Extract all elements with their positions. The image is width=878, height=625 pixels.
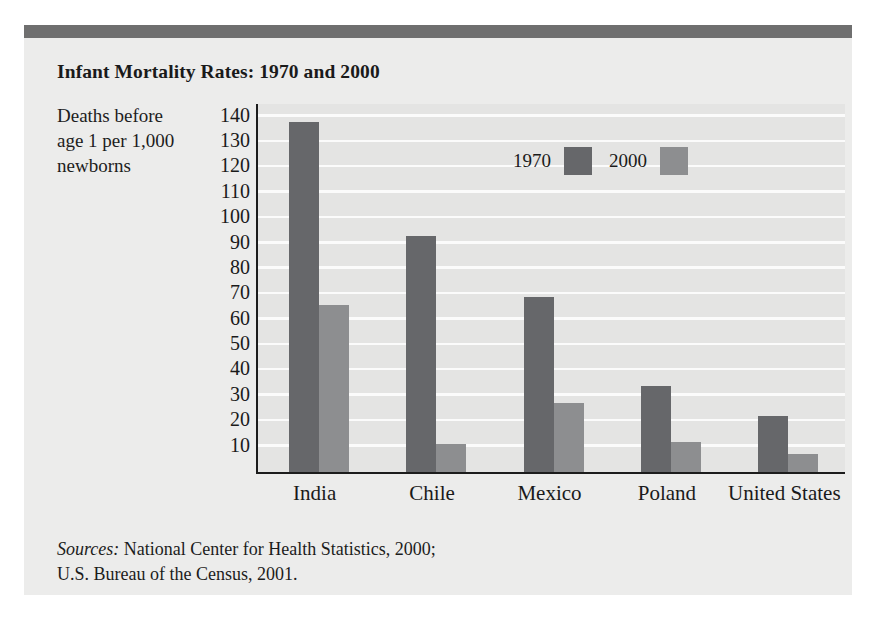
bar-mexico-2000	[554, 403, 584, 472]
gridline	[258, 241, 845, 244]
x-axis-label-united-states: United States	[716, 480, 853, 506]
bar-united-states-1970	[758, 416, 788, 472]
bar-india-1970	[289, 122, 319, 472]
bar-poland-1970	[641, 386, 671, 472]
bar-chile-1970	[406, 236, 436, 472]
legend-swatch-2000	[660, 147, 688, 175]
y-axis-tick-label: 30	[230, 384, 250, 404]
header-band	[24, 25, 852, 38]
y-axis-tick-label: 50	[230, 333, 250, 353]
y-axis-tick-label: 130	[220, 130, 250, 150]
gridline	[258, 266, 845, 269]
sources-line-2: U.S. Bureau of the Census, 2001.	[57, 562, 436, 587]
x-axis-category-labels: IndiaChileMexicoPolandUnited States	[256, 480, 846, 540]
bar-india-2000	[319, 305, 349, 473]
chart-legend: 1970 2000	[513, 147, 688, 175]
y-axis-tick-label: 80	[230, 257, 250, 277]
y-axis-tick-label: 140	[220, 105, 250, 125]
y-axis-tick-label: 40	[230, 358, 250, 378]
gridline	[258, 292, 845, 295]
y-axis-tick-label: 100	[220, 206, 250, 226]
legend-label-1970: 1970	[513, 150, 551, 172]
bar-mexico-1970	[524, 297, 554, 472]
y-axis-tick-label: 60	[230, 308, 250, 328]
bar-united-states-2000	[788, 454, 818, 472]
legend-swatch-1970	[564, 147, 592, 175]
figure-card: Infant Mortality Rates: 1970 and 2000 De…	[24, 25, 852, 595]
page-title: Infant Mortality Rates: 1970 and 2000	[57, 61, 380, 83]
legend-item-2000: 2000	[609, 147, 688, 175]
sources-line-1: Sources: National Center for Health Stat…	[57, 537, 436, 562]
y-axis-tick-label: 110	[221, 181, 250, 201]
gridline	[258, 140, 845, 143]
legend-label-2000: 2000	[609, 150, 647, 172]
bar-poland-2000	[671, 442, 701, 472]
gridline	[258, 190, 845, 193]
gridline	[258, 216, 845, 219]
bar-chile-2000	[436, 444, 466, 472]
y-axis-tick-label: 20	[230, 409, 250, 429]
y-axis-tick-label: 90	[230, 232, 250, 252]
sources-label: Sources:	[57, 539, 119, 559]
gridline	[258, 114, 845, 117]
y-axis-tick-labels: 102030405060708090100110120130140	[184, 104, 250, 472]
y-axis-tick-label: 120	[220, 155, 250, 175]
y-axis-tick-label: 70	[230, 282, 250, 302]
sources-text-1: National Center for Health Statistics, 2…	[119, 539, 435, 559]
legend-item-1970: 1970	[513, 147, 592, 175]
sources-note: Sources: National Center for Health Stat…	[57, 537, 436, 587]
y-axis-tick-label: 10	[230, 435, 250, 455]
